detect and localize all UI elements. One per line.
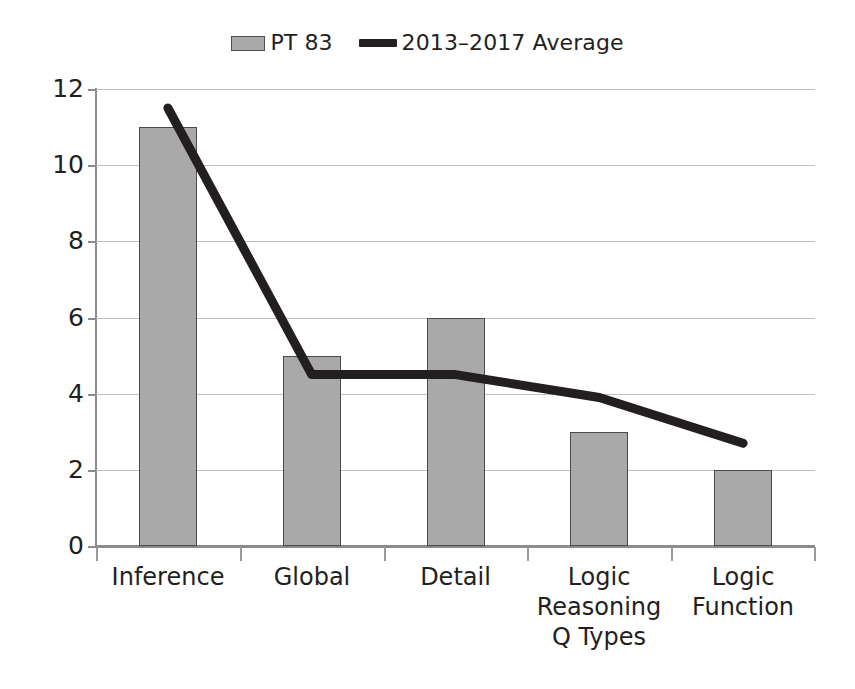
x-label-logic-reasoning-q-types: Logic Reasoning Q Types xyxy=(527,562,671,652)
legend-bar-swatch-icon xyxy=(231,36,265,51)
x-tick-mark-1 xyxy=(240,547,242,561)
plot-area xyxy=(96,89,815,546)
average-line-path xyxy=(168,108,743,443)
x-tick-mark-5 xyxy=(814,547,816,561)
y-tick-label-4: 4 xyxy=(10,381,84,406)
line-series-average xyxy=(96,89,815,546)
x-axis-line xyxy=(96,546,815,548)
x-tick-mark-0 xyxy=(96,547,98,561)
y-tick-label-2: 2 xyxy=(10,457,84,482)
x-tick-mark-3 xyxy=(527,547,529,561)
legend-item-average: 2013–2017 Average xyxy=(359,32,624,54)
legend-line-swatch-icon xyxy=(359,39,397,47)
chart-container: PT 83 2013–2017 Average 12 10 8 6 4 2 0 xyxy=(0,0,855,689)
chart-legend: PT 83 2013–2017 Average xyxy=(0,26,855,60)
legend-label-average: 2013–2017 Average xyxy=(402,32,624,54)
x-label-global: Global xyxy=(240,562,384,592)
y-tick-label-10: 10 xyxy=(10,152,84,177)
y-tick-label-0: 0 xyxy=(10,533,84,558)
y-tick-label-8: 8 xyxy=(10,228,84,253)
y-tick-label-6: 6 xyxy=(10,305,84,330)
x-label-detail: Detail xyxy=(384,562,527,592)
x-axis-tick-labels: Inference Global Detail Logic Reasoning … xyxy=(96,562,815,672)
x-label-logic-function: Logic Function xyxy=(671,562,815,622)
x-tick-mark-4 xyxy=(671,547,673,561)
legend-item-pt-83: PT 83 xyxy=(231,32,332,54)
x-label-inference: Inference xyxy=(96,562,240,592)
legend-label-pt-83: PT 83 xyxy=(270,32,332,54)
y-axis-tick-labels: 12 10 8 6 4 2 0 xyxy=(0,89,84,546)
y-tick-label-12: 12 xyxy=(10,76,84,101)
x-tick-mark-2 xyxy=(384,547,386,561)
